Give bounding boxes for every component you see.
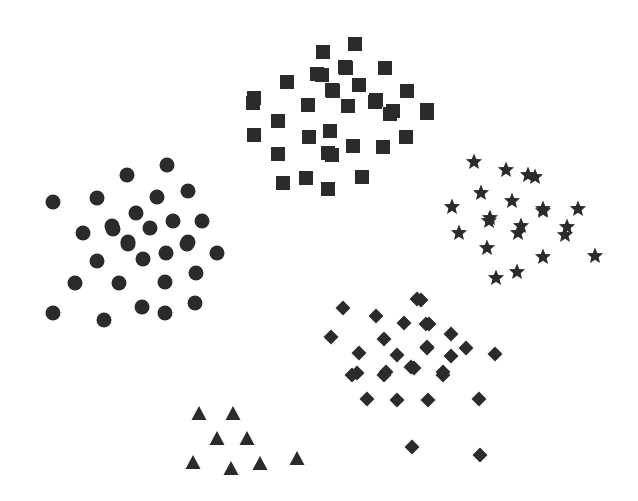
star-marker [534,202,551,219]
circle-marker [121,237,136,252]
square-marker [316,45,330,59]
square-marker [276,176,290,190]
star-marker [451,224,468,241]
triangle-marker [223,460,239,476]
circle-marker [119,168,134,183]
star-marker [557,227,574,244]
triangle-marker [191,405,207,421]
circle-marker [209,246,224,261]
square-marker [271,147,285,161]
square-marker [339,61,353,75]
circle-marker [136,252,151,267]
diamond-marker [404,440,419,455]
square-marker [368,95,382,109]
circle-marker [194,213,209,228]
diamond-marker [359,392,374,407]
square-marker [247,128,261,142]
square-marker [346,139,360,153]
triangle-marker [289,450,305,466]
diamond-marker [407,361,422,376]
circle-marker [158,274,173,289]
diamond-marker [473,448,488,463]
circle-marker [90,253,105,268]
star-marker [587,248,604,265]
square-marker [400,84,414,98]
circle-marker [76,226,91,241]
circle-marker [68,276,83,291]
triangle-marker [239,430,255,446]
circle-marker [159,245,174,260]
circle-marker [188,295,203,310]
circle-marker [149,190,164,205]
triangle-marker [185,454,201,470]
square-marker [383,107,397,121]
square-marker [355,170,369,184]
star-marker [481,212,498,229]
square-marker [399,130,413,144]
star-marker [466,153,483,170]
diamond-marker [336,300,351,315]
square-marker [315,68,329,82]
square-marker [321,146,335,160]
circle-marker [129,205,144,220]
diamond-marker [323,329,338,344]
star-marker [479,240,496,257]
scatter-plot-canvas [0,0,638,501]
square-marker [301,98,315,112]
star-marker [570,201,587,218]
circle-marker [179,237,194,252]
square-marker [341,99,355,113]
diamond-marker [443,348,458,363]
star-marker [534,249,551,266]
square-marker [376,140,390,154]
square-marker [325,83,339,97]
circle-marker [181,183,196,198]
diamond-marker [369,308,384,323]
square-marker [246,96,260,110]
diamond-marker [397,316,412,331]
star-marker [510,224,527,241]
diamond-marker [377,332,392,347]
square-marker [321,182,335,196]
circle-marker [97,313,112,328]
circle-marker [45,195,60,210]
circle-marker [89,191,104,206]
diamond-marker [459,340,474,355]
diamond-marker [443,327,458,342]
square-marker [280,75,294,89]
diamond-marker [472,392,487,407]
star-marker [498,162,515,179]
circle-marker [160,158,175,173]
diamond-marker [377,368,392,383]
star-marker [488,270,505,287]
diamond-marker [421,393,436,408]
square-marker [302,130,316,144]
square-marker [420,106,434,120]
triangle-marker [225,405,241,421]
star-marker [503,192,520,209]
circle-marker [104,219,119,234]
circle-marker [134,299,149,314]
star-marker [472,184,489,201]
diamond-marker [488,347,503,362]
diamond-marker [436,368,451,383]
square-marker [348,37,362,51]
circle-marker [158,306,173,321]
star-marker [509,263,526,280]
diamond-marker [352,346,367,361]
diamond-marker [413,293,428,308]
triangle-marker [209,430,225,446]
circle-marker [45,305,60,320]
triangle-marker [252,455,268,471]
square-marker [378,61,392,75]
diamond-marker [420,340,435,355]
star-marker [443,199,460,216]
circle-marker [112,275,127,290]
square-marker [352,78,366,92]
square-marker [299,171,313,185]
square-marker [271,114,285,128]
square-marker [323,124,337,138]
diamond-marker [344,368,359,383]
diamond-marker [390,393,405,408]
star-marker [527,168,544,185]
